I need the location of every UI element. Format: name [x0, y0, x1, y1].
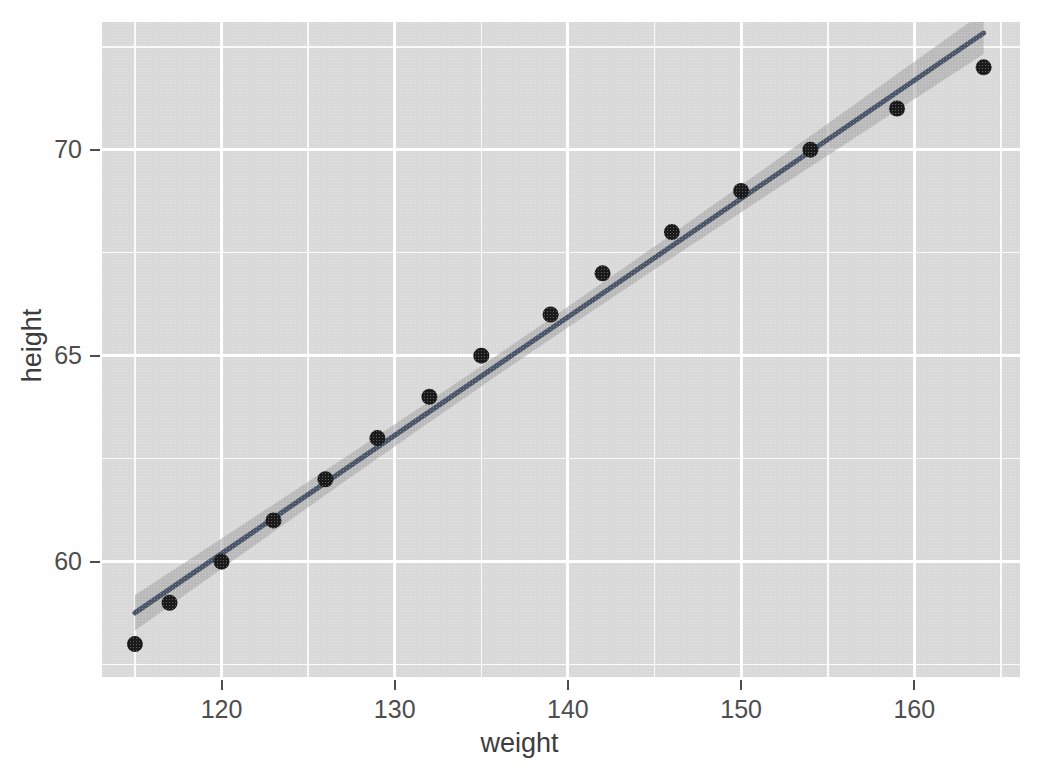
- data-point: [162, 595, 178, 611]
- data-point: [543, 306, 559, 322]
- x-tick-label: 120: [162, 697, 282, 722]
- confidence-band: [135, 22, 984, 631]
- data-point: [976, 59, 992, 75]
- x-axis-title: weight: [0, 728, 1039, 759]
- data-point: [317, 471, 333, 487]
- data-point: [369, 430, 385, 446]
- x-tick-mark: [913, 680, 915, 690]
- data-points: [127, 59, 992, 652]
- x-tick-label: 150: [681, 697, 801, 722]
- y-tick-label: 60: [0, 549, 82, 574]
- data-point: [265, 512, 281, 528]
- y-tick-mark: [90, 561, 100, 563]
- y-axis-title: height: [17, 266, 48, 426]
- x-tick-mark: [567, 680, 569, 690]
- y-tick-mark: [90, 149, 100, 151]
- data-point: [802, 142, 818, 158]
- x-tick-mark: [221, 680, 223, 690]
- x-tick-label: 140: [508, 697, 628, 722]
- y-tick-label: 70: [0, 137, 82, 162]
- x-tick-mark: [394, 680, 396, 690]
- x-tick-mark: [740, 680, 742, 690]
- y-tick-mark: [90, 355, 100, 357]
- chart-figure: 606570 120130140150160 weight height: [0, 0, 1039, 783]
- data-point: [733, 183, 749, 199]
- x-tick-label: 160: [854, 697, 974, 722]
- x-tick-label: 130: [335, 697, 455, 722]
- data-layer: [102, 22, 1020, 677]
- data-point: [127, 636, 143, 652]
- confidence-ribbon: [135, 22, 984, 631]
- data-point: [595, 265, 611, 281]
- fit-line: [135, 33, 984, 613]
- data-point: [421, 389, 437, 405]
- data-point: [214, 554, 230, 570]
- plot-panel: [102, 22, 1020, 677]
- data-point: [473, 348, 489, 364]
- data-point: [889, 101, 905, 117]
- regression-line: [135, 33, 984, 613]
- data-point: [664, 224, 680, 240]
